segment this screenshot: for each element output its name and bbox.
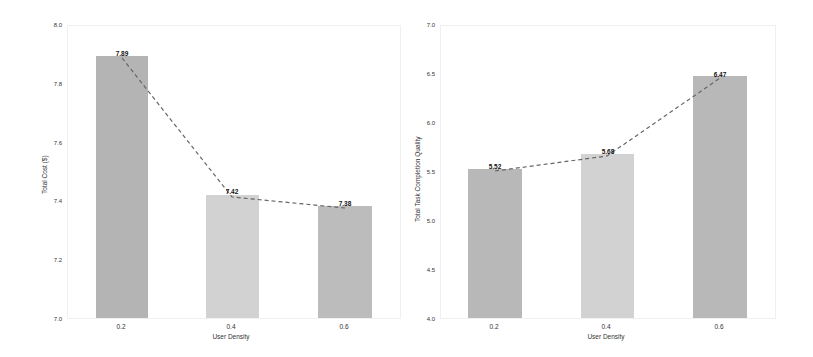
right-ytick: 6.0	[411, 120, 435, 126]
left-ytick: 7.2	[38, 257, 62, 263]
right-value-label: 5.68	[593, 148, 623, 155]
left-value-label: 7.42	[217, 188, 247, 195]
right-xtick: 0.2	[479, 323, 509, 330]
left-ytick: 7.4	[38, 198, 62, 204]
right-x-axis-title: User Density	[546, 333, 666, 340]
left-value-label: 7.89	[107, 50, 137, 57]
left-xtick: 0.2	[106, 323, 136, 330]
right-ytick: 7.0	[411, 22, 435, 28]
left-plot-area: 7.89 7.42 7.38	[67, 25, 401, 319]
left-xtick: 0.6	[329, 323, 359, 330]
left-y-axis-title: Total Cost ($)	[41, 155, 48, 194]
right-y-axis-title: Total Task Completion Quality	[414, 136, 421, 222]
right-xtick: 0.4	[591, 323, 621, 330]
left-ytick: 8.0	[38, 22, 62, 28]
right-xtick: 0.6	[704, 323, 734, 330]
right-ytick: 4.5	[411, 267, 435, 273]
left-ytick: 7.8	[38, 81, 62, 87]
left-value-label: 7.38	[330, 200, 360, 207]
left-x-axis-title: User Density	[171, 333, 291, 340]
left-ytick: 7.0	[38, 316, 62, 322]
right-ytick: 4.0	[411, 316, 435, 322]
right-value-label: 5.52	[480, 163, 510, 170]
left-xtick: 0.4	[216, 323, 246, 330]
right-plot-area: 5.52 5.68 6.47	[440, 25, 776, 319]
left-ytick: 7.6	[38, 140, 62, 146]
right-value-label: 6.47	[705, 71, 735, 78]
left-chart: 7.89 7.42 7.38 7.0 7.2 7.4 7.6 7.8 8.0 0…	[0, 0, 405, 357]
left-trend-line	[68, 26, 402, 320]
right-chart: 5.52 5.68 6.47 4.0 4.5 5.0 5.5 6.0 6.5 7…	[405, 0, 813, 357]
right-ytick: 6.5	[411, 71, 435, 77]
